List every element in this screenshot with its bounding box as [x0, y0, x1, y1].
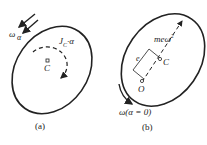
omega-condition-label-b: ω(α = 0): [119, 108, 151, 117]
alpha-label-a: α: [17, 34, 21, 42]
caption-b: (b): [142, 123, 153, 132]
force-label-b: meω2: [154, 33, 174, 44]
center-point-a: [46, 59, 49, 62]
inertia-torque-label-a: JC·α: [59, 37, 74, 48]
disk-a: [0, 11, 108, 129]
force-text: meω: [154, 34, 171, 44]
center-point-b: [158, 57, 161, 60]
pivot-label-b: O: [138, 85, 145, 94]
center-label-b: C: [163, 58, 169, 67]
omega-label-a: ω: [9, 30, 15, 39]
eccentricity-label-b: e: [136, 55, 140, 63]
center-label-a: C: [44, 64, 50, 73]
caption-a: (a): [35, 122, 45, 131]
omega-arrow-b: [119, 84, 132, 104]
force-line-b: [142, 21, 182, 82]
force-superscript: 2: [171, 33, 174, 39]
diagram-canvas: [0, 0, 207, 145]
inertia-alpha: ·α: [67, 36, 74, 46]
pivot-point-b: [140, 79, 143, 82]
inertia-torque-arc-a: [33, 47, 67, 78]
